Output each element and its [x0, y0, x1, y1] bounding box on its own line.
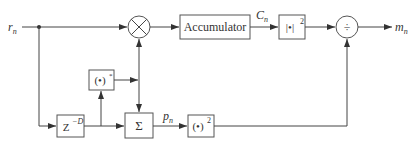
multiplier-node: [128, 16, 150, 38]
conjugate-block: (•) *: [89, 70, 114, 90]
svg-text:2: 2: [300, 17, 304, 26]
block-diagram: rn Accumulator Cn |•| 2 ÷ mn Z: [0, 0, 418, 148]
pn-label: pn: [162, 109, 173, 125]
cn-label: Cn: [256, 8, 268, 24]
svg-text:÷: ÷: [344, 20, 351, 34]
input-label: rn: [8, 20, 17, 36]
delay-block: Z −D: [57, 115, 84, 137]
summation-block: Σ: [125, 113, 153, 138]
svg-text:(•): (•): [192, 120, 204, 133]
divider-node: ÷: [336, 16, 358, 38]
svg-text:|•|: |•|: [286, 21, 294, 33]
svg-text:(•): (•): [94, 74, 106, 87]
svg-text:*: *: [109, 72, 113, 80]
svg-text:Accumulator: Accumulator: [184, 20, 247, 34]
output-label: mn: [395, 20, 408, 36]
svg-text:2: 2: [207, 116, 211, 125]
svg-text:−D: −D: [72, 117, 83, 126]
square-block: (•) 2: [188, 115, 214, 137]
abs-squared-block: |•| 2: [279, 15, 305, 39]
delay-input-wire: [39, 27, 56, 126]
svg-text:Σ: Σ: [135, 118, 143, 133]
square-to-div-wire: [214, 39, 347, 126]
accumulator-block: Accumulator: [180, 15, 250, 39]
svg-text:Z: Z: [63, 121, 70, 133]
